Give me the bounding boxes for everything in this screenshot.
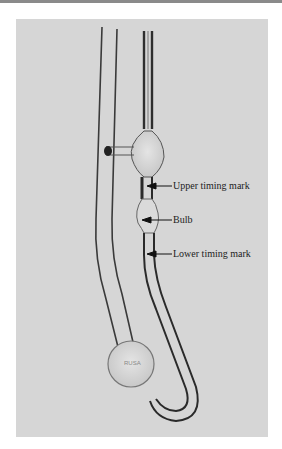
- top-rule: [0, 0, 282, 3]
- label-upper-timing-mark: Upper timing mark: [173, 181, 250, 191]
- capillary-tube: [144, 31, 152, 129]
- label-bulb: Bulb: [173, 215, 192, 225]
- label-lower-timing-mark: Lower timing mark: [173, 249, 251, 259]
- upper-reservoir: [131, 131, 164, 177]
- left-tube: [96, 27, 138, 379]
- viscometer-drawing: RUSA: [16, 19, 268, 437]
- timing-bulb: [137, 199, 159, 233]
- viscometer-photo: RUSA Upper timing mark Bulb Lower timing…: [16, 19, 268, 437]
- annotation-arrows: [142, 183, 172, 257]
- svg-text:RUSA: RUSA: [124, 360, 141, 366]
